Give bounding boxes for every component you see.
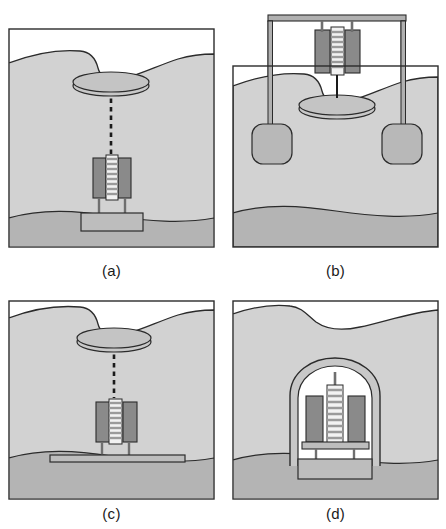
panel-c-illustration [8,300,215,500]
instrument-left-block [306,396,323,442]
panel-c-caption: (c) [8,505,215,522]
base-plate [81,213,143,231]
base-plate [298,459,372,479]
panel-b-caption: (b) [232,262,439,279]
surface-float-disc [73,72,149,92]
figure-container: (a) [0,0,446,529]
instrument-right-block [118,158,131,198]
anchor-block-left-overlay [252,124,292,164]
instrument-left-block [96,402,110,442]
panel-b-illustration [232,8,439,248]
panel-b [232,8,439,228]
instrument-left-block [93,158,106,198]
anchor-block-right-overlay [382,124,422,164]
panel-d-caption: (d) [232,505,439,522]
gantry-beam [268,15,406,21]
panel-d-illustration [232,300,439,500]
wide-base-plate [50,455,185,462]
instrument-right-block [348,396,365,442]
gantry-right-leg-overlay [401,21,406,126]
panel-a-illustration [8,28,215,248]
panel-a [8,28,215,248]
panel-a-caption: (a) [8,262,215,279]
instrument-stripes [327,390,343,438]
instrument-right-block [123,402,137,442]
panel-d [232,300,439,520]
gantry-left-leg-overlay [268,21,273,126]
instrument-shelf [302,442,369,449]
panel-c [8,300,215,520]
surface-float-disc [77,328,151,348]
